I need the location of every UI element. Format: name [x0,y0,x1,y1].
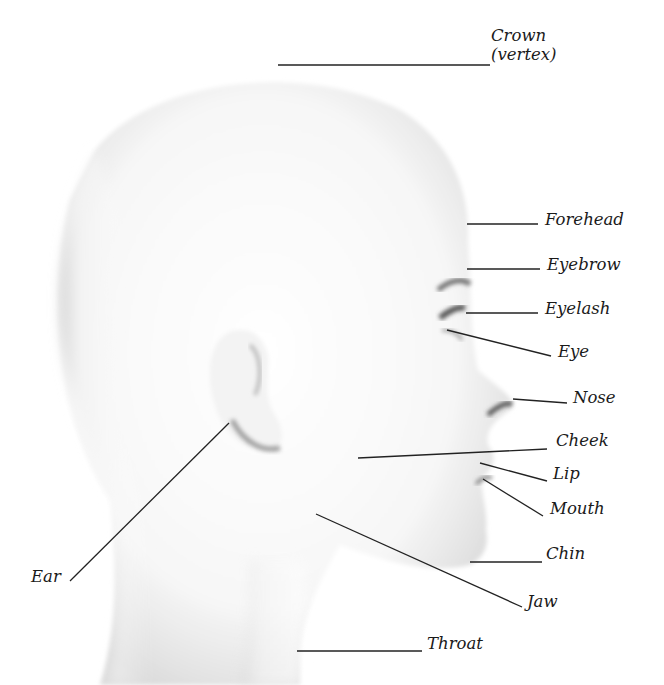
leader-line-mouth [483,479,543,516]
label-ear: Ear [31,568,61,586]
label-eye: Eye [558,343,589,361]
label-eyebrow: Eyebrow [547,256,621,274]
label-vertex: (vertex) [491,46,557,64]
label-throat: Throat [427,635,483,653]
label-forehead: Forehead [545,211,624,229]
label-mouth: Mouth [550,500,605,518]
label-cheek: Cheek [556,432,609,450]
label-eyelash: Eyelash [545,300,610,318]
label-nose: Nose [573,389,616,407]
label-crown: Crown [491,27,546,45]
label-lip: Lip [553,465,580,483]
head-shape [58,82,513,685]
label-chin: Chin [546,545,585,563]
leader-line-nose [513,399,567,403]
head-anatomy-diagram: Crown(vertex)ForeheadEyebrowEyelashEyeNo… [0,0,664,685]
label-jaw: Jaw [527,593,558,611]
